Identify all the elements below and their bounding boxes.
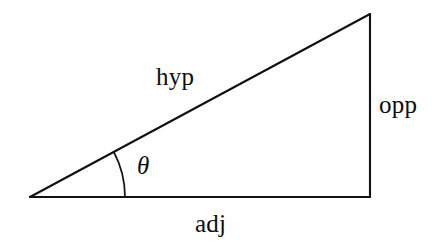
adjacent-label: adj (195, 211, 226, 236)
opposite-label: opp (379, 92, 417, 117)
hypotenuse-side-line (30, 14, 370, 197)
angle-arc (114, 152, 125, 197)
hypotenuse-label: hyp (156, 64, 194, 89)
theta-angle-label: θ (137, 153, 149, 178)
triangle-diagram: hyp opp adj θ (0, 0, 432, 246)
